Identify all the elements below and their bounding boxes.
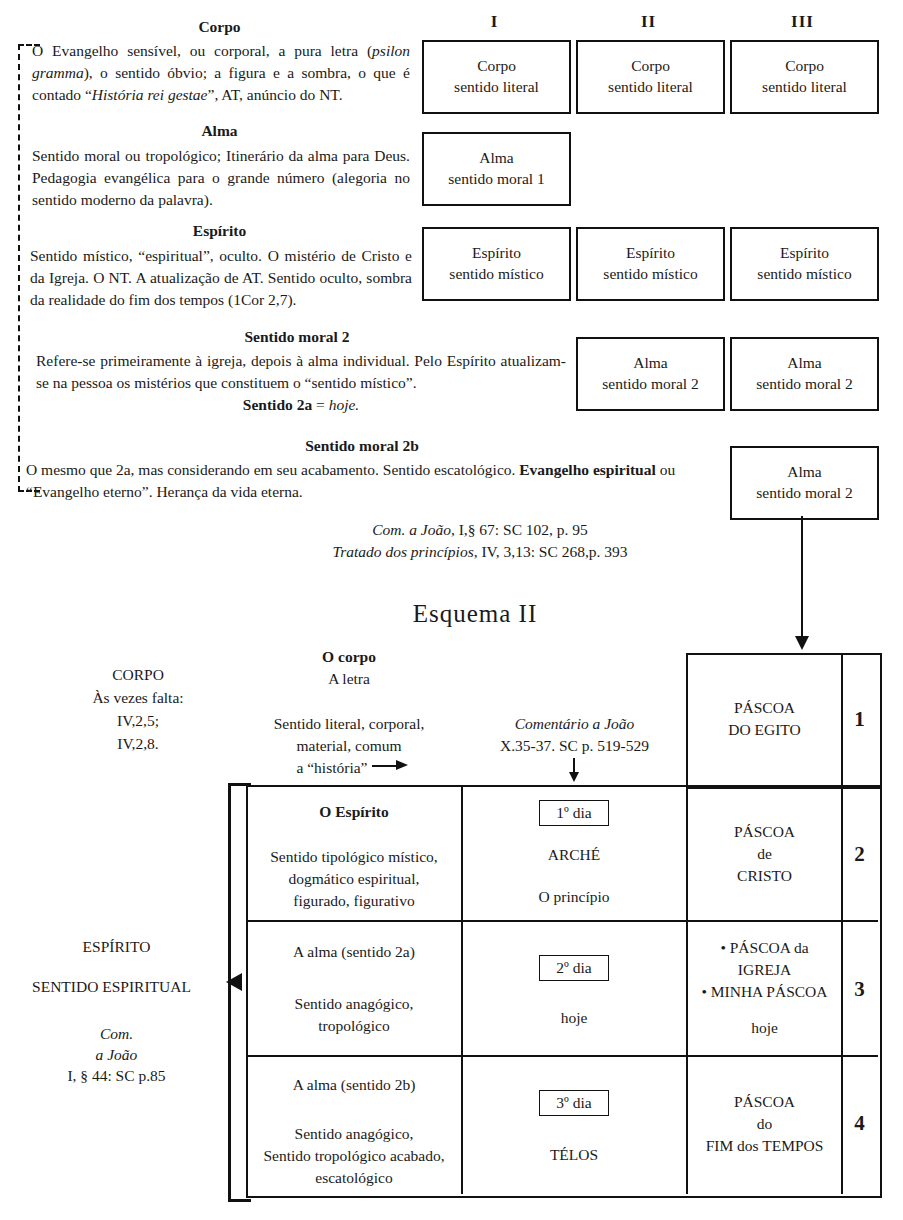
header-o-corpo-title: O corpo	[235, 645, 463, 668]
left-label-sentido-espiritual: SENTIDO ESPIRITUAL	[4, 975, 219, 998]
box-line-2: sentido místico	[603, 264, 697, 285]
box-line-1: Espírito	[626, 243, 675, 264]
row-2-pascoa-line-3: CRISTO	[688, 864, 841, 887]
header-o-corpo-body-2: material, comum	[235, 734, 463, 757]
box-line-2: sentido literal	[762, 77, 847, 98]
box-espirito-i: Espírito sentido místico	[422, 227, 571, 301]
header-comentario-arrow-down-icon	[569, 772, 579, 782]
box-line-1: Espírito	[780, 243, 829, 264]
left-label-corpo-line-2: Às vezes falta:	[48, 686, 228, 709]
block-heading-alma: Alma	[32, 122, 407, 140]
left-label-espirito: ESPÍRITO	[14, 935, 219, 958]
box-espirito-ii: Espírito sentido místico	[576, 227, 725, 301]
row-2-dia-badge-wrapper: 1º dia	[463, 800, 685, 826]
block-footer-sentido-2a: Sentido 2a = hoje.	[36, 394, 566, 416]
left-label-corpo-line-1: CORPO	[48, 663, 228, 686]
box-alma-moral-2-ii: Alma sentido moral 2	[576, 337, 725, 411]
row-2-dia-line-2: O princípio	[463, 885, 685, 908]
box-line-2: sentido literal	[608, 77, 693, 98]
row-4-dia-badge-wrapper: 3º dia	[463, 1090, 685, 1116]
block-heading-sentido-moral-2b: Sentido moral 2b	[32, 437, 692, 455]
box-line-1: Corpo	[631, 56, 670, 77]
row-4-pascoa-line-1: PÁSCOA	[688, 1090, 841, 1113]
header-comentario-line-1: Comentário a João	[462, 712, 687, 735]
block-heading-corpo: Corpo	[32, 18, 407, 36]
box-corpo-i: Corpo sentido literal	[422, 40, 571, 114]
left-label-citation-3: I, § 44: SC p.85	[14, 1064, 219, 1087]
row-2-dia-line-1: ARCHÉ	[463, 843, 685, 866]
row-2-number: 2	[841, 842, 878, 867]
row-3-pascoa-line-2: IGREJA	[688, 958, 841, 981]
row-3-dia-line-1: hoje	[463, 1006, 685, 1029]
box-line-2: sentido moral 2	[756, 374, 852, 395]
row-4-sentido-line-2: Sentido anagógico,	[248, 1122, 460, 1145]
box-line-2: sentido moral 1	[448, 169, 544, 190]
box-alma-moral-2b: Alma sentido moral 2	[730, 446, 879, 520]
box-line-2: sentido literal	[454, 77, 539, 98]
row-4-sentido-line-1: A alma (sentido 2b)	[248, 1073, 460, 1096]
header-o-corpo-body-3: a “história”	[218, 756, 446, 779]
left-label-corpo-line-3: IV,2,5;	[48, 709, 228, 732]
row-2-sentido-title: O Espírito	[248, 800, 460, 823]
box-espirito-iii: Espírito sentido místico	[730, 227, 879, 301]
table-row-divider-2	[246, 1055, 878, 1057]
column-header-i: I	[422, 12, 567, 32]
row-4-pascoa-line-2: do	[688, 1112, 841, 1135]
left-label-arrow-left-icon	[226, 973, 242, 991]
row-2-pascoa-line-2: de	[688, 842, 841, 865]
box-line-2: sentido místico	[757, 264, 851, 285]
pascoa-row-1-line-2: DO EGITO	[688, 718, 841, 741]
pascoa-row-1-line-1: PÁSCOA	[688, 696, 841, 719]
row-3-number: 3	[841, 977, 878, 1002]
row-4-pascoa-line-3: FIM dos TEMPOS	[688, 1134, 841, 1157]
box-line-2: sentido místico	[449, 264, 543, 285]
box-line-1: Corpo	[477, 56, 516, 77]
citation-com-a-joao: Com. a João, I,§ 67: SC 102, p. 95	[200, 519, 760, 541]
pascoa-row-1-number: 1	[841, 707, 878, 732]
esquema-ii-title: Esquema II	[250, 600, 700, 628]
left-label-corpo-line-4: IV,2,8.	[48, 732, 228, 755]
box-line-2: sentido moral 2	[756, 483, 852, 504]
block-heading-espirito: Espírito	[32, 222, 407, 240]
box-line-1: Alma	[787, 462, 821, 483]
column-header-iii: III	[730, 12, 875, 32]
box-line-2: sentido moral 2	[602, 374, 698, 395]
citation-tratado-dos-principios: Tratado dos princípios, IV, 3,13: SC 268…	[200, 541, 760, 563]
block-body-sentido-moral-2b: O mesmo que 2a, mas considerando em seu …	[26, 459, 726, 503]
box-line-1: Alma	[479, 148, 513, 169]
row-2-sentido-line-3: figurado, figurativo	[248, 889, 460, 912]
row-4-number: 4	[841, 1111, 878, 1136]
block-body-alma: Sentido moral ou tropológico; Itinerário…	[32, 145, 410, 211]
header-arrow-right-line	[372, 765, 398, 767]
row-3-dia-badge-wrapper: 2º dia	[463, 955, 685, 981]
row-4-dia-badge: 3º dia	[539, 1090, 608, 1116]
box-line-1: Espírito	[472, 243, 521, 264]
table-row-divider-1	[246, 920, 878, 922]
box-line-1: Alma	[787, 353, 821, 374]
row-4-sentido-line-4: escatológico	[248, 1166, 460, 1189]
header-arrow-right-icon	[396, 760, 408, 770]
block-body-sentido-moral-2: Refere-se primeiramente à igreja, depois…	[36, 350, 566, 394]
header-o-corpo-body-1: Sentido literal, corporal,	[235, 712, 463, 735]
left-label-citation-1: Com.	[14, 1022, 219, 1045]
row-3-sentido-line-2: Sentido anagógico,	[248, 992, 460, 1015]
row-4-dia-line-1: TÉLOS	[463, 1143, 685, 1166]
block-heading-sentido-moral-2: Sentido moral 2	[32, 328, 562, 346]
row-2-sentido-line-2: dogmático espiritual,	[248, 867, 460, 890]
box-corpo-ii: Corpo sentido literal	[576, 40, 725, 114]
row-3-sentido-line-3: tropológico	[248, 1014, 460, 1037]
header-comentario-line-2: X.35-37. SC p. 519-529	[462, 734, 687, 757]
column-header-ii: II	[576, 12, 721, 32]
left-label-citation-2: a João	[14, 1043, 219, 1066]
row-2-pascoa-line-1: PÁSCOA	[688, 820, 841, 843]
row-2-sentido-line-1: Sentido tipológico místico,	[248, 845, 460, 868]
block-body-espirito: Sentido místico, “espiritual”, oculto. O…	[30, 245, 412, 311]
row-3-dia-badge: 2º dia	[539, 955, 608, 981]
row-3-pascoa-line-3: • MINHA PÁSCOA	[688, 980, 841, 1003]
connector-line-vertical	[801, 516, 803, 640]
box-alma-moral-1: Alma sentido moral 1	[422, 132, 571, 206]
row-3-sentido-line-1: A alma (sentido 2a)	[248, 940, 460, 963]
box-line-1: Corpo	[785, 56, 824, 77]
connector-arrow-down-icon	[795, 636, 809, 650]
row-3-pascoa-line-4: hoje	[688, 1016, 841, 1039]
